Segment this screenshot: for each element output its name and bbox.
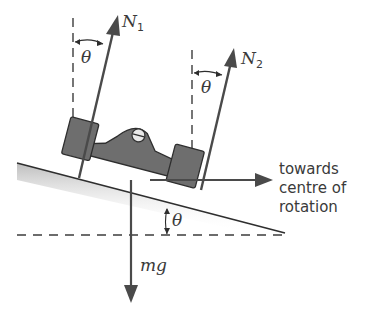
n2-label: N2 (241, 48, 263, 71)
n1-label: N1 (122, 11, 144, 34)
centripetal-label-line-1: towards (279, 160, 346, 179)
theta-n2-label: θ (201, 77, 211, 97)
n2-force-arrow (201, 48, 237, 190)
centripetal-direction-label: towards centre of rotation (279, 160, 346, 217)
theta-slope-label: θ (172, 210, 182, 230)
centripetal-label-line-3: rotation (279, 198, 346, 217)
weight-label: mg (140, 255, 167, 275)
theta-arc-n1 (75, 39, 103, 46)
centripetal-label-line-2: centre of (279, 179, 346, 198)
banked-track-force-diagram: N1 N2 θ θ θ mg towards centre of rotatio… (0, 0, 375, 320)
banked-slope-line (17, 163, 285, 233)
theta-arc-n2 (194, 70, 222, 77)
car (61, 111, 206, 188)
right-wheel (166, 144, 205, 188)
theta-n1-label: θ (81, 47, 91, 67)
